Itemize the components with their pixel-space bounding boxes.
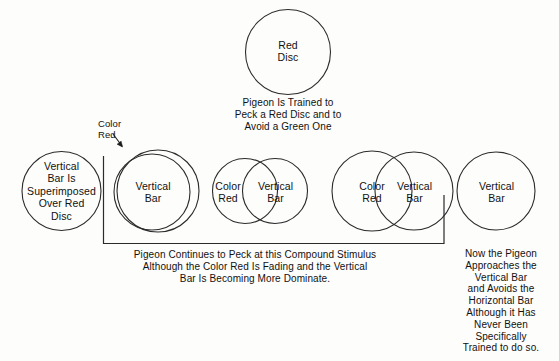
stage2-vertical-bar-label: Vertical Bar <box>124 180 182 205</box>
stage1-label: Vertical Bar Is Superimposed Over Red Di… <box>6 160 117 222</box>
red-disc-label: Red Disc <box>258 39 318 64</box>
right-caption: Now the Pigeon Approaches the Vertical B… <box>445 248 557 354</box>
color-red-annotation: Color Red <box>98 118 144 140</box>
stage4-vertical-bar-label: Vertical Bar <box>387 180 442 205</box>
diagram-canvas: Red Disc Pigeon Is Trained to Peck a Red… <box>0 0 559 361</box>
top-caption: Pigeon Is Trained to Peck a Red Disc and… <box>208 97 368 132</box>
bracket-caption: Pigeon Continues to Peck at this Compoun… <box>100 249 410 284</box>
stage5-vertical-bar-label: Vertical Bar <box>469 180 524 205</box>
stage3-vertical-bar-label: Vertical Bar <box>248 180 303 205</box>
stage3-color-red-label: Color Red <box>208 180 248 205</box>
color-red-arrow-head <box>117 141 122 147</box>
